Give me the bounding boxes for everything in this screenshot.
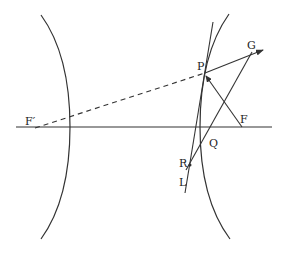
label-l: L: [179, 177, 186, 188]
label-g: G: [247, 40, 256, 51]
diagram-canvas: F′ F P G Q R L: [0, 0, 286, 254]
arrow-p-g: [205, 50, 263, 73]
label-f-prime: F′: [25, 116, 35, 127]
label-f: F: [240, 114, 248, 125]
dashed-line-fprime-p: [35, 73, 205, 128]
label-r: R: [179, 158, 187, 169]
line-g-q-r: [186, 52, 252, 170]
label-p: P: [197, 61, 204, 72]
label-q: Q: [209, 138, 218, 149]
point-r-dot: [189, 164, 192, 167]
tangent-line: [185, 22, 213, 193]
hyperbola-diagram: [0, 0, 286, 254]
